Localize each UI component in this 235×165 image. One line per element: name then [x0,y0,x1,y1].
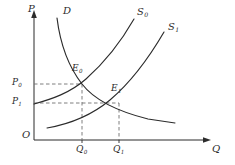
supply1-curve [47,32,164,128]
supply1-curve-label-sub: 1 [175,26,179,33]
price-tick-p0: P0 [12,78,22,88]
y-axis-label: P [28,4,35,14]
supply0-curve-label-sub: 0 [144,11,148,18]
equilibrium-label-e0-sub: 0 [79,68,83,74]
guide-lines-e1 [34,103,119,140]
quantity-tick-q0: Q0 [76,145,87,155]
x-axis-label: Q [212,144,220,154]
origin-label: O [22,130,30,140]
supply0-curve-label: S0 [137,7,148,18]
equilibrium-label-e1: E1 [111,84,121,94]
guide-lines-e0 [34,84,82,140]
price-tick-p1-sub: 1 [18,101,22,107]
quantity-tick-q0-sub: 0 [83,149,87,155]
equilibrium-label-e1-sub: 1 [118,88,122,94]
supply0-curve-label-text: S [137,6,144,17]
equilibrium-label-e1-text: E [111,83,118,93]
supply1-curve-label: S1 [168,22,179,33]
price-tick-p1: P1 [12,97,22,107]
equilibrium-label-e0: E0 [72,64,82,74]
demand-curve-label: D [63,6,71,16]
x-axis-arrow [203,137,211,143]
supply1-curve-label-text: S [168,21,175,32]
supply-demand-figure: P Q O D S0 S1 E0 E1 P0 P1 Q0 Q1 [0,0,235,165]
demand-curve-label-text: D [63,5,71,16]
quantity-tick-q1: Q1 [113,145,124,155]
equilibrium-label-e0-text: E [72,63,79,73]
price-tick-p0-sub: 0 [18,82,22,88]
quantity-tick-q1-sub: 1 [120,149,124,155]
y-axis [31,10,37,140]
x-axis [34,137,211,143]
